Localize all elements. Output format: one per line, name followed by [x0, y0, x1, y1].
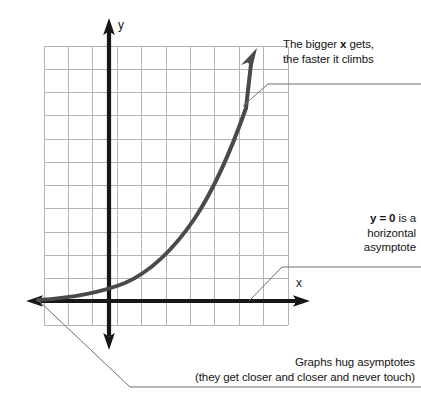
callout-climbs-line1-pre: The bigger: [283, 38, 340, 50]
callout-climbs-line1-post: gets,: [346, 38, 374, 50]
callout-asymptote-line-2: horizontal: [364, 226, 416, 241]
callout-climbs-line-1: The bigger x gets,: [283, 37, 374, 52]
callout-asymptote-line1-post: is a: [395, 212, 416, 224]
x-axis-label: x: [296, 277, 302, 289]
callout-asymptote-equation: y = 0: [370, 212, 395, 224]
callout-bigger-x-climbs: The bigger x gets, the faster it climbs: [283, 37, 374, 66]
callout-asymptote-line-3: asymptote: [364, 240, 416, 255]
exponential-curve: [38, 48, 257, 300]
y-axis-label: y: [118, 19, 124, 31]
callout-graphs-hug-asymptotes: Graphs hug asymptotes (they get closer a…: [195, 355, 415, 384]
leader-line-climbs: [243, 84, 421, 106]
callout-asymptote-line-1: y = 0 is a: [364, 211, 416, 226]
grid-lines: [44, 46, 288, 325]
callout-horizontal-asymptote: y = 0 is a horizontal asymptote: [364, 211, 416, 255]
exponential-graph-figure: y x The bigger x gets, the faster it cli…: [0, 0, 421, 412]
callout-hug-line-2: (they get closer and closer and never to…: [195, 370, 415, 385]
callout-hug-line-1: Graphs hug asymptotes: [195, 355, 415, 370]
exponential-curve-arrow: [241, 48, 257, 67]
leader-line-asymptote: [249, 267, 421, 301]
callout-climbs-line-2: the faster it climbs: [283, 52, 374, 67]
